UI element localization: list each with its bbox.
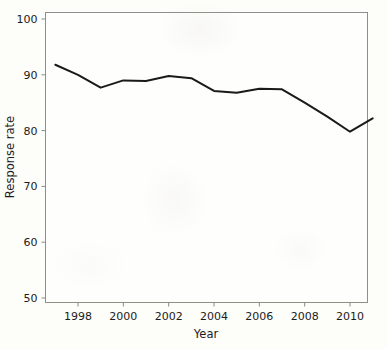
y-tick-label: 100 xyxy=(17,13,38,26)
y-tick-label: 50 xyxy=(24,292,38,305)
y-tick-label: 60 xyxy=(24,236,38,249)
x-tick-label: 2004 xyxy=(200,310,228,323)
y-tick-label: 90 xyxy=(24,69,38,82)
y-tick-label: 80 xyxy=(24,125,38,138)
x-tick-label: 2000 xyxy=(109,310,137,323)
plot-frame xyxy=(46,13,368,303)
y-axis-title: Response rate xyxy=(3,116,17,198)
y-tick-label: 70 xyxy=(24,180,38,193)
x-tick-label: 2006 xyxy=(245,310,273,323)
x-axis-title: Year xyxy=(193,327,219,341)
x-tick-label: 1998 xyxy=(64,310,92,323)
line-chart: 1009080706050 19982000200220042006200820… xyxy=(0,0,387,349)
x-tick-label: 2010 xyxy=(336,310,364,323)
chart-figure: 1009080706050 19982000200220042006200820… xyxy=(0,0,387,349)
x-tick-label: 2002 xyxy=(155,310,183,323)
x-tick-label: 2008 xyxy=(291,310,319,323)
